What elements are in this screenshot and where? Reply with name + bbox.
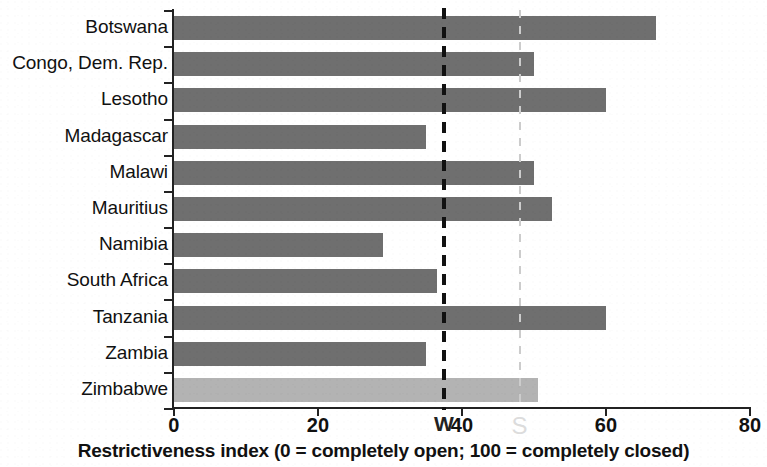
x-axis-tick-label-0: 0 [168, 414, 179, 437]
y-axis-tick [164, 46, 173, 48]
y-axis-label-congo-dem-rep: Congo, Dem. Rep. [12, 52, 168, 74]
y-axis-label-mauritius: Mauritius [92, 197, 168, 219]
plot-area [174, 10, 750, 408]
y-axis-label-namibia: Namibia [99, 233, 168, 255]
reference-marker-w: W [434, 412, 454, 436]
y-axis-label-zimbabwe: Zimbabwe [81, 378, 168, 400]
bar-south-africa [174, 269, 437, 293]
average-reference-line [442, 8, 446, 410]
bar-madagascar [174, 125, 426, 149]
y-axis-tick [164, 299, 173, 301]
bar-lesotho [174, 88, 606, 112]
y-axis-tick [164, 119, 173, 121]
y-axis-tick [164, 191, 173, 193]
bar-mauritius [174, 197, 552, 221]
y-axis-label-lesotho: Lesotho [101, 88, 168, 110]
y-axis-tick [164, 10, 173, 12]
y-axis-tick [164, 336, 173, 338]
y-axis-label-tanzania: Tanzania [93, 306, 168, 328]
y-axis-label-madagascar: Madagascar [64, 125, 168, 147]
y-axis-label-botswana: Botswana [85, 16, 168, 38]
bar-zambia [174, 342, 426, 366]
x-axis-tick-label-60: 60 [595, 414, 618, 437]
y-axis-tick [164, 372, 173, 374]
y-axis-tick [164, 408, 173, 410]
watermark-s: S [512, 412, 528, 440]
bar-namibia [174, 233, 383, 257]
bar-botswana [174, 16, 656, 40]
bar-tanzania [174, 306, 606, 330]
x-axis-tick-label-80: 80 [739, 414, 762, 437]
restrictiveness-index-bar-chart: BotswanaCongo, Dem. Rep.LesothoMadagasca… [0, 0, 767, 467]
y-axis-label-malawi: Malawi [109, 161, 168, 183]
x-axis-caption: Restrictiveness index (0 = completely op… [0, 440, 767, 462]
y-axis-tick [164, 155, 173, 157]
y-axis-spine [172, 9, 174, 409]
y-axis-tick [164, 82, 173, 84]
y-axis-tick [164, 263, 173, 265]
bar-congo-dem-rep [174, 52, 534, 76]
y-axis-tick [164, 227, 173, 229]
secondary-reference-line [519, 10, 521, 408]
y-axis-label-zambia: Zambia [105, 342, 168, 364]
bar-malawi [174, 161, 534, 185]
x-axis-tick-label-20: 20 [307, 414, 330, 437]
y-axis-label-south-africa: South Africa [67, 269, 168, 291]
bar-zimbabwe [174, 378, 538, 402]
y-axis-category-labels: BotswanaCongo, Dem. Rep.LesothoMadagasca… [0, 0, 168, 467]
